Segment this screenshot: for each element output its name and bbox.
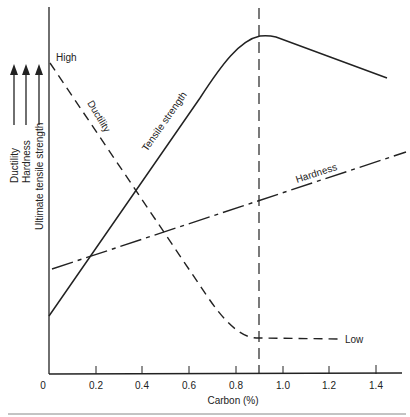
y-label-tensile: Ultimate tensile strength [34,123,45,230]
ductility-curve-label: Ductility [85,98,112,134]
hardness-line [52,152,406,269]
high-label: High [56,52,77,63]
hardness-curve-label: Hardness [294,161,338,185]
y-label-hardness: Hardness [21,140,32,183]
svg-text:1.2: 1.2 [322,380,336,391]
tensile-curve-label: Tensile strength [140,89,189,153]
x-axis [49,373,402,374]
x-tick-labels: 0 0.2 0.4 0.6 0.8 1.0 1.2 1.4 [40,380,383,391]
svg-text:0.2: 0.2 [89,380,103,391]
x-axis-title: Carbon (%) [207,395,258,406]
svg-text:0: 0 [40,380,46,391]
tensile-strength-line [49,36,387,316]
arrow-up-icons [10,64,43,75]
svg-text:0.6: 0.6 [182,380,196,391]
y-axis-arrows [14,72,39,125]
svg-text:1.0: 1.0 [276,380,290,391]
svg-text:0.4: 0.4 [135,380,149,391]
carbon-properties-chart: High Low Ductility Tensile strength Hard… [0,0,410,417]
y-label-ductility: Ductility [9,148,20,183]
svg-text:1.4: 1.4 [369,380,383,391]
svg-text:0.8: 0.8 [229,380,243,391]
low-label: Low [345,334,364,345]
